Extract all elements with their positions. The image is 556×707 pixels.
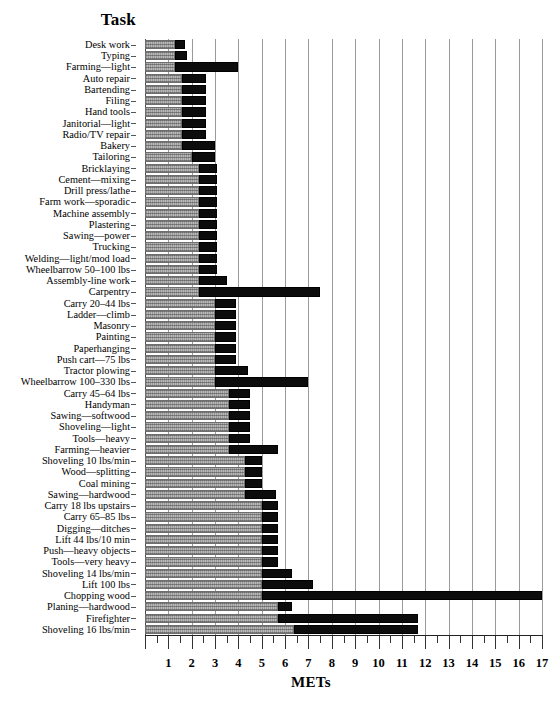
bar-segment-dark [199,265,218,274]
bar-segment-dark [182,74,205,83]
row-tick-dash [131,146,136,147]
bar-segment-light [145,265,199,274]
bar-segment-light [145,580,262,589]
bar-row [145,253,542,264]
bar-segment-light [145,479,245,488]
bar-segment-light [145,344,215,353]
bar-segment-dark [199,287,320,296]
x-tick-major-13 [449,636,450,649]
task-label: Push cart—75 lbs [0,354,130,365]
bar-segment-light [145,490,245,499]
bar-segment-light [145,377,215,386]
task-label: Handyman [0,399,130,410]
bar-row [145,331,542,342]
bar-segment-light [145,141,182,150]
x-tick-major-15 [495,636,496,649]
x-axis [145,635,543,650]
bar-segment-dark [215,355,236,364]
row-tick-dash [131,326,136,327]
task-label: Sawing—power [0,230,130,241]
x-tick-major-8 [332,636,333,649]
row-tick-dash [131,123,136,124]
bar-segment-dark [199,197,218,206]
x-tick-label-13: 13 [442,656,455,671]
bar-segment-dark [262,569,292,578]
bar-segment-light [145,231,199,240]
bar-segment-dark [245,490,275,499]
x-tick-minor-14.5 [484,636,485,643]
row-tick-dash [131,517,136,518]
bar-row [145,275,542,286]
task-label: Hand tools [0,106,130,117]
x-tick-label-6: 6 [282,656,288,671]
row-tick-dash [131,180,136,181]
task-label: Carry 65–85 lbs [0,511,130,522]
row-tick-dash [131,281,136,282]
bar-segment-dark [262,546,278,555]
task-label: Sawing—hardwood [0,489,130,500]
x-tick-major-4 [238,636,239,649]
bar-segment-light [145,186,199,195]
task-label: Wood—splitting [0,466,130,477]
bar-segment-dark [245,456,261,465]
bar-segment-light [145,74,182,83]
row-tick-dash [131,629,136,630]
bar-row [145,151,542,162]
task-label: Carry 45–64 lbs [0,388,130,399]
x-tick-label-14: 14 [466,656,479,671]
bar-segment-dark [262,580,313,589]
bar-segment-light [145,445,229,454]
row-tick-dash [131,78,136,79]
bar-segment-dark [199,231,218,240]
x-tick-major-17 [542,636,543,649]
row-tick-dash [131,584,136,585]
bar-row [145,140,542,151]
bar-segment-light [145,197,199,206]
bar-segment-light [145,332,215,341]
row-tick-dash [131,337,136,338]
x-tick-label-12: 12 [419,656,432,671]
task-label: Welding—light/mod load [0,253,130,264]
bar-segment-light [145,152,192,161]
row-tick-dash [131,506,136,507]
task-label: Drill press/lathe [0,185,130,196]
bar-row [145,590,542,601]
bar-row [145,421,542,432]
task-label: Bartending [0,84,130,95]
row-tick-dash [131,225,136,226]
bar-row [145,286,542,297]
row-tick-dash [131,494,136,495]
x-tick-label-5: 5 [259,656,265,671]
bar-row [145,118,542,129]
bar-segment-light [145,400,229,409]
bar-segment-dark [199,242,218,251]
bar-segment-dark [192,152,215,161]
bar-rows [145,39,542,635]
x-tick-minor-3.5 [227,636,228,643]
task-label: Shoveling 14 lbs/min [0,568,130,579]
x-tick-minor-0.5 [157,636,158,643]
x-axis-title-text: METs [291,674,331,691]
x-tick-minor-5.5 [273,636,274,643]
x-tick-label-2: 2 [189,656,195,671]
bar-segment-dark [182,119,205,128]
x-tick-minor-10.5 [390,636,391,643]
task-label: Machine assembly [0,208,130,219]
bar-segment-dark [182,141,215,150]
bar-segment-light [145,276,199,285]
x-tick-label-1: 1 [165,656,171,671]
bar-segment-light [145,254,199,263]
row-tick-dash [131,551,136,552]
row-tick-dash [131,371,136,372]
bar-row [145,309,542,320]
row-tick-dash [131,573,136,574]
bar-segment-light [145,175,199,184]
bar-row [145,568,542,579]
bar-segment-dark [215,310,236,319]
row-tick-dash [131,101,136,102]
bar-segment-light [145,299,215,308]
bar-segment-dark [199,209,218,218]
bar-segment-light [145,355,215,364]
bar-segment-dark [199,276,227,285]
row-tick-dash [131,270,136,271]
